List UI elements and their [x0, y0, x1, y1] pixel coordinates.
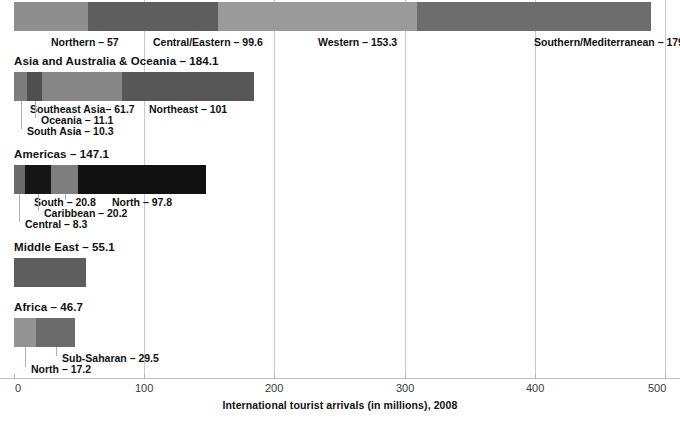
x-axis-line — [0, 378, 680, 379]
leader-line-south-asia — [21, 101, 22, 129]
bar-segment-sub-saharan — [36, 318, 74, 347]
gridline-500 — [665, 0, 666, 378]
x-tick-label-300: 300 — [396, 382, 414, 394]
leader-line-central — [19, 194, 20, 222]
bar-africa — [14, 318, 75, 347]
bar-segment-oceania — [27, 72, 41, 101]
bar-segment-central-eastern — [88, 2, 218, 31]
leader-line-oceania — [35, 101, 36, 118]
bar-americas — [14, 165, 206, 194]
gridline-300 — [405, 0, 406, 378]
leader-line-north — [25, 347, 26, 367]
bar-segment-north — [78, 165, 205, 194]
x-tick-label-100: 100 — [135, 382, 153, 394]
segment-label-africa-north: North – 17.2 — [31, 363, 91, 375]
bar-segment-western — [218, 2, 418, 31]
gridline-200 — [274, 0, 275, 378]
leader-line-sub-saharan — [56, 347, 57, 356]
bar-segment-central — [14, 165, 25, 194]
bar-segment-southern-mediterranean — [417, 2, 651, 31]
segment-label-americas-central: Central – 8.3 — [25, 218, 87, 230]
gridline-400 — [535, 0, 536, 378]
group-heading-africa: Africa – 46.7 — [14, 301, 83, 313]
bar-segment-south — [51, 165, 78, 194]
x-tick-mark-100 — [144, 374, 145, 379]
bar-segment-northeast — [122, 72, 254, 101]
x-tick-label-400: 400 — [526, 382, 544, 394]
leader-line-south — [65, 194, 66, 200]
bar-segment-south-asia — [14, 72, 27, 101]
bar-asia-and-australia-oceania — [14, 72, 254, 101]
bar-middle-east — [14, 258, 86, 287]
x-tick-mark-300 — [405, 374, 406, 379]
bar-europe — [14, 2, 651, 31]
bar-segment-caribbean — [25, 165, 51, 194]
bar-segment-middle-east — [14, 258, 86, 287]
x-tick-label-200: 200 — [265, 382, 283, 394]
x-axis-title: International tourist arrivals (in milli… — [0, 399, 680, 411]
segment-label-asia-and-australia-oceania-northeast: Northeast – 101 — [149, 103, 227, 115]
bar-segment-north — [14, 318, 36, 347]
x-tick-mark-200 — [274, 374, 275, 379]
bar-segment-northern — [14, 2, 88, 31]
group-heading-americas: Americas – 147.1 — [14, 148, 109, 160]
x-tick-label-0: 0 — [15, 382, 21, 394]
bar-segment-southeast-asia — [42, 72, 122, 101]
leader-line-caribbean — [38, 194, 39, 211]
x-tick-mark-500 — [665, 374, 666, 379]
x-tick-label-500: 500 — [648, 382, 666, 394]
group-heading-asia-and-australia-oceania: Asia and Australia & Oceania – 184.1 — [14, 55, 219, 67]
segment-label-asia-and-australia-oceania-south-asia: South Asia – 10.3 — [27, 125, 114, 137]
stacked-bar-chart: Northern – 57Central/Eastern – 99.6Weste… — [0, 0, 680, 424]
x-tick-mark-400 — [535, 374, 536, 379]
x-tick-mark-0 — [14, 374, 15, 379]
group-heading-middle-east: Middle East – 55.1 — [14, 241, 115, 253]
